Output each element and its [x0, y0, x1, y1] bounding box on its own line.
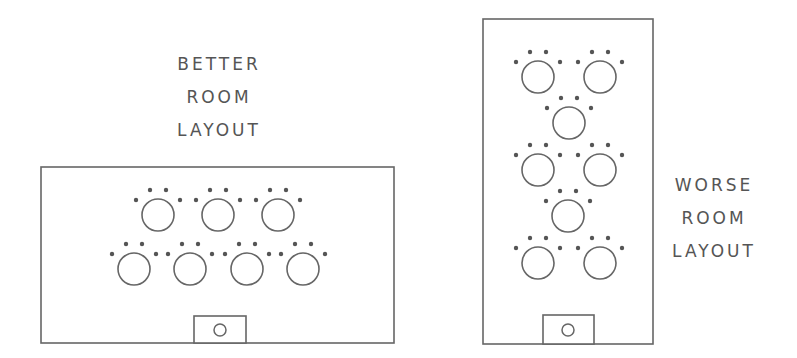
seat-dot — [558, 60, 562, 64]
round-table — [287, 253, 319, 285]
seat-dot — [574, 189, 578, 193]
seat-dot — [164, 188, 168, 192]
table-group — [576, 50, 624, 93]
round-table — [522, 61, 554, 93]
round-table — [231, 253, 263, 285]
seat-dot — [558, 246, 562, 250]
seat-dot — [576, 153, 580, 157]
seat-dot — [620, 60, 624, 64]
seat-dot — [544, 143, 548, 147]
seat-dot — [124, 242, 128, 246]
table-group — [223, 242, 271, 285]
round-table — [522, 154, 554, 186]
room-layout-diagram — [0, 0, 797, 358]
round-table — [584, 154, 616, 186]
seat-dot — [544, 236, 548, 240]
seat-dot — [253, 242, 257, 246]
seat-dot — [110, 252, 114, 256]
better-room — [41, 167, 394, 343]
round-table — [522, 247, 554, 279]
seat-dot — [134, 198, 138, 202]
seat-dot — [238, 198, 242, 202]
seat-dot — [178, 198, 182, 202]
table-group — [166, 242, 214, 285]
podium — [194, 316, 246, 343]
podium — [543, 315, 594, 344]
table-group — [254, 188, 302, 231]
round-table — [262, 199, 294, 231]
seat-dot — [196, 242, 200, 246]
seat-dot — [590, 236, 594, 240]
seat-dot — [559, 96, 563, 100]
seat-dot — [558, 153, 562, 157]
seat-dot — [194, 198, 198, 202]
table-group — [110, 242, 158, 285]
seat-dot — [284, 188, 288, 192]
seat-dot — [267, 252, 271, 256]
table-group — [514, 143, 562, 186]
seat-dot — [589, 106, 593, 110]
table-group — [134, 188, 182, 231]
seat-dot — [606, 50, 610, 54]
seat-dot — [514, 60, 518, 64]
seat-dot — [544, 199, 548, 203]
seat-dot — [544, 50, 548, 54]
seat-dot — [208, 188, 212, 192]
round-table — [118, 253, 150, 285]
seat-dot — [323, 252, 327, 256]
seat-dot — [154, 252, 158, 256]
seat-dot — [237, 242, 241, 246]
seat-dot — [514, 246, 518, 250]
round-table — [584, 247, 616, 279]
seat-dot — [528, 50, 532, 54]
round-table — [553, 107, 585, 139]
round-table — [202, 199, 234, 231]
seat-dot — [254, 198, 258, 202]
seat-dot — [223, 252, 227, 256]
table-group — [514, 236, 562, 279]
table-group — [576, 143, 624, 186]
seat-dot — [545, 106, 549, 110]
seat-dot — [588, 199, 592, 203]
seat-dot — [606, 143, 610, 147]
round-table — [142, 199, 174, 231]
seat-dot — [558, 189, 562, 193]
seat-dot — [576, 246, 580, 250]
table-group — [279, 242, 327, 285]
seat-dot — [606, 236, 610, 240]
table-group — [576, 236, 624, 279]
seat-dot — [148, 188, 152, 192]
round-table — [552, 200, 584, 232]
worse-room — [483, 19, 653, 344]
round-table — [584, 61, 616, 93]
seat-dot — [180, 242, 184, 246]
seat-dot — [590, 143, 594, 147]
seat-dot — [514, 153, 518, 157]
seat-dot — [210, 252, 214, 256]
seat-dot — [590, 50, 594, 54]
seat-dot — [166, 252, 170, 256]
seat-dot — [279, 252, 283, 256]
seat-dot — [224, 188, 228, 192]
table-group — [545, 96, 593, 139]
table-group — [194, 188, 242, 231]
seat-dot — [309, 242, 313, 246]
table-group — [544, 189, 592, 232]
seat-dot — [268, 188, 272, 192]
seat-dot — [620, 153, 624, 157]
seat-dot — [576, 60, 580, 64]
seat-dot — [293, 242, 297, 246]
seat-dot — [528, 236, 532, 240]
seat-dot — [140, 242, 144, 246]
seat-dot — [620, 246, 624, 250]
seat-dot — [298, 198, 302, 202]
table-group — [514, 50, 562, 93]
round-table — [174, 253, 206, 285]
seat-dot — [528, 143, 532, 147]
room-outline — [483, 19, 653, 344]
seat-dot — [575, 96, 579, 100]
